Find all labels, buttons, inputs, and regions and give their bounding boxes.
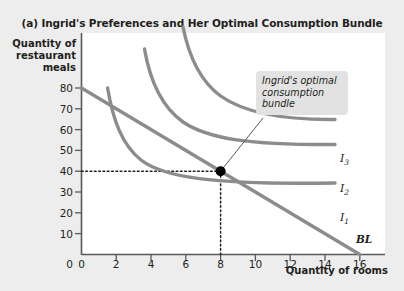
- curve-label-i3: I3: [340, 152, 349, 167]
- y-tick-50: 50: [47, 144, 73, 156]
- y-tick-80: 80: [47, 82, 73, 94]
- y-tick-60: 60: [47, 124, 73, 136]
- x-tick-8: 8: [211, 258, 231, 270]
- x-tick-12: 14: [315, 258, 335, 270]
- y-tick-0: 0: [47, 258, 73, 270]
- optimal-bundle-point: [216, 166, 226, 176]
- curve-label-i3-sub: 3: [344, 158, 349, 167]
- x-tick-16: 10: [245, 258, 265, 270]
- x-tick-6: 6: [176, 258, 196, 270]
- x-tick-4: 4: [141, 258, 161, 270]
- y-tick-10: 10: [47, 228, 73, 240]
- y-tick-40: 40: [47, 165, 73, 177]
- figure-panel: (a) Ingrid's Preferences and Her Optimal…: [0, 0, 404, 291]
- y-axis-ticks: [75, 88, 82, 234]
- curve-label-i2: I2: [340, 182, 349, 197]
- y-tick-30: 30: [47, 186, 73, 198]
- x-tick-14: 16: [350, 258, 370, 270]
- x-tick-0: 0: [72, 258, 92, 270]
- x-tick-2: 2: [106, 258, 126, 270]
- y-tick-20: 20: [47, 207, 73, 219]
- callout-optimal-bundle: Ingrid's optimal consumption bundle: [256, 71, 348, 115]
- x-tick-10: 12: [280, 258, 300, 270]
- curve-label-i1-sub: 1: [344, 217, 349, 226]
- curve-label-i1: I1: [340, 211, 349, 226]
- y-tick-70: 70: [47, 103, 73, 115]
- curve-label-i2-sub: 2: [344, 188, 349, 197]
- curve-label-bl: BL: [356, 233, 372, 245]
